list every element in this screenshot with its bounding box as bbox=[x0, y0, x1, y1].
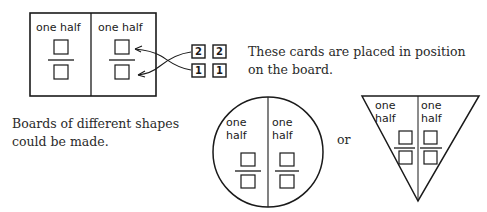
placement-arrows bbox=[135, 46, 191, 77]
rectangle-board: one half one half bbox=[30, 13, 156, 96]
triangle-left-label-line2: half bbox=[375, 112, 397, 125]
card: 2 bbox=[213, 45, 226, 58]
card-value: 2 bbox=[216, 46, 223, 57]
shapes-caption-line1: Boards of different shapes bbox=[12, 116, 179, 131]
card-value: 1 bbox=[195, 65, 202, 76]
triangle-right-label-line2: half bbox=[421, 112, 443, 125]
rect-left-label: one half bbox=[36, 21, 82, 34]
cards-caption-line1: These cards are placed in position bbox=[248, 44, 466, 59]
card: 1 bbox=[192, 64, 205, 77]
number-cards: 2 2 1 1 bbox=[192, 45, 226, 77]
arrow-to-numerator bbox=[135, 49, 191, 70]
circle-right-denominator-slot bbox=[280, 175, 294, 188]
circle-right-label-line1: one bbox=[272, 116, 293, 129]
circle-left-label-line1: one bbox=[226, 116, 247, 129]
card: 1 bbox=[213, 64, 226, 77]
triangle-left-label-line1: one bbox=[375, 99, 396, 112]
circle-board: one half one half bbox=[213, 97, 323, 207]
rect-right-label: one half bbox=[98, 21, 144, 34]
triangle-board: one half one half bbox=[362, 96, 479, 201]
card-value: 2 bbox=[195, 46, 202, 57]
triangle-right-numerator-slot bbox=[424, 131, 437, 144]
arrow-to-denominator bbox=[138, 52, 191, 75]
triangle-left-denominator-slot bbox=[399, 151, 412, 164]
circle-left-denominator-slot bbox=[241, 175, 255, 188]
cards-caption-line2: on the board. bbox=[248, 62, 333, 77]
rect-left-numerator-slot bbox=[54, 40, 68, 54]
rect-left-denominator-slot bbox=[54, 65, 68, 79]
card: 2 bbox=[192, 45, 205, 58]
rect-right-denominator-slot bbox=[115, 65, 129, 79]
circle-left-numerator-slot bbox=[241, 153, 255, 166]
fraction-boards-diagram: one half one half 2 2 1 1 bbox=[0, 0, 487, 212]
or-connector: or bbox=[337, 132, 351, 147]
shapes-caption-line2: could be made. bbox=[12, 134, 109, 149]
circle-left-label-line2: half bbox=[226, 129, 248, 142]
card-value: 1 bbox=[216, 65, 223, 76]
triangle-left-numerator-slot bbox=[399, 131, 412, 144]
rect-right-numerator-slot bbox=[115, 40, 129, 54]
triangle-right-denominator-slot bbox=[424, 151, 437, 164]
circle-right-label-line2: half bbox=[272, 129, 294, 142]
circle-right-numerator-slot bbox=[280, 153, 294, 166]
triangle-right-label-line1: one bbox=[421, 99, 442, 112]
